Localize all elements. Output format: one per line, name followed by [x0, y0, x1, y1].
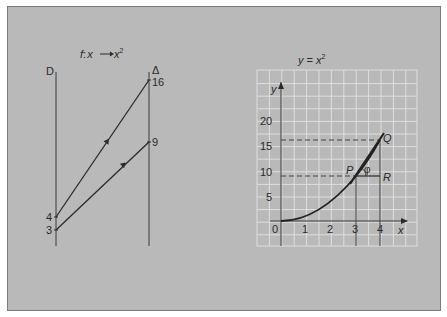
y-tick-20: 20 [260, 115, 272, 127]
mapping-title-x2: x2 [113, 47, 124, 60]
x-tick-3: 3 [352, 223, 358, 235]
mapping-diagram: f:x x2 D Δ 4 3 16 9 [46, 47, 164, 246]
point-R-label: R [383, 171, 391, 183]
graph-title: y = x2 [297, 53, 326, 66]
mapping-title-f: f:x [80, 48, 93, 60]
x-tick-1: 1 [302, 223, 308, 235]
x-tick-0: 0 [272, 223, 278, 235]
x-axis-label: x [397, 224, 404, 236]
codomain-label: Δ [152, 64, 160, 76]
y-tick-5: 5 [266, 191, 272, 203]
mapping-line-3-to-9 [56, 142, 149, 230]
angle-phi-label: φ [364, 164, 371, 175]
codomain-value-9: 9 [152, 136, 158, 148]
parabola-curve [281, 140, 380, 221]
domain-value-3: 3 [46, 224, 52, 236]
point-Q-label: Q [383, 132, 392, 144]
codomain-value-16: 16 [152, 76, 164, 88]
x-tick-2: 2 [327, 223, 333, 235]
diagram-canvas: f:x x2 D Δ 4 3 16 9 y = x2 [0, 0, 447, 317]
y-tick-10: 10 [260, 166, 272, 178]
mapping-line-4-to-16 [56, 80, 149, 217]
graph-y-equals-x-squared: y = x2 [257, 53, 417, 246]
point-P-label: P [346, 164, 354, 176]
y-tick-15: 15 [260, 140, 272, 152]
domain-value-4: 4 [46, 211, 52, 223]
y-axis-arrow-icon [278, 82, 284, 89]
domain-label: D [46, 65, 54, 77]
y-axis-label: y [270, 83, 278, 95]
arrow-marker-icon [120, 160, 128, 168]
